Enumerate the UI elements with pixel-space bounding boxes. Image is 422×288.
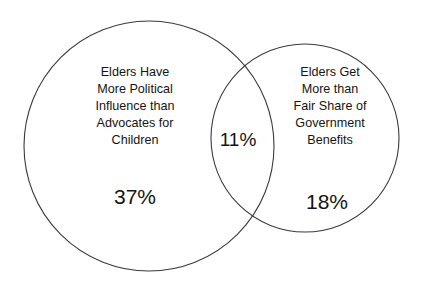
left-set-label-line-4: Advocates for: [60, 115, 210, 132]
right-set-label-line-2: More than: [262, 81, 398, 98]
right-set-label: Elders Get More than Fair Share of Gover…: [262, 64, 398, 149]
right-set-label-line-4: Government: [262, 115, 398, 132]
left-set-label-line-5: Children: [60, 132, 210, 149]
right-set-label-line-5: Benefits: [262, 132, 398, 149]
left-set-percent: 37%: [85, 185, 185, 209]
left-set-label-line-1: Elders Have: [60, 64, 210, 81]
left-set-label-line-3: Influence than: [60, 98, 210, 115]
left-set-label: Elders Have More Political Influence tha…: [60, 64, 210, 149]
left-set-label-line-2: More Political: [60, 81, 210, 98]
right-set-label-line-3: Fair Share of: [262, 98, 398, 115]
venn-diagram: Elders Have More Political Influence tha…: [0, 0, 422, 288]
intersection-percent: 11%: [198, 129, 278, 151]
right-set-percent: 18%: [277, 190, 377, 214]
right-set-label-line-1: Elders Get: [262, 64, 398, 81]
